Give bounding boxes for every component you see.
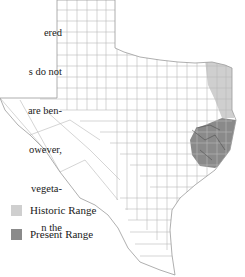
legend-item-present: Present Range [11, 224, 96, 244]
caption-line: s do not [0, 65, 62, 78]
present-swatch-icon [11, 229, 22, 240]
caption-line: ered [0, 26, 62, 39]
legend-label: Historic Range [30, 204, 96, 216]
caption-line: vegeta- [0, 182, 62, 195]
legend-label: Present Range [30, 228, 93, 240]
legend-item-historic: Historic Range [11, 200, 96, 220]
caption-line: are ben- [0, 104, 62, 117]
caption-line: owever, [0, 143, 62, 156]
historic-swatch-icon [11, 205, 22, 216]
map-legend: Historic Range Present Range [11, 200, 96, 248]
